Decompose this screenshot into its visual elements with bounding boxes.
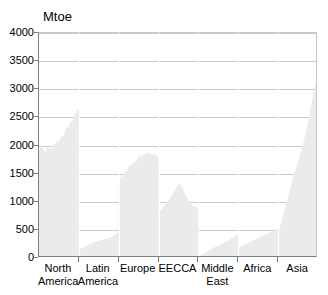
plot-area: [38, 32, 317, 257]
y-tick-mark: [34, 201, 38, 202]
x-axis-category-labels: NorthAmericaLatinAmericaEuropeEECCAMiddl…: [38, 262, 317, 295]
panel-divider: [119, 33, 120, 256]
x-category-label-line1: Europe: [118, 262, 158, 275]
y-tick-mark: [34, 116, 38, 117]
y-tick-mark: [34, 60, 38, 61]
y-tick-label: 4000: [2, 27, 34, 38]
x-category-label-africa: Africa: [237, 262, 277, 275]
y-tick-label: 3500: [2, 55, 34, 66]
y-tick-label: 500: [2, 224, 34, 235]
x-tick-mark: [78, 257, 79, 262]
x-category-label-north-america: NorthAmerica: [38, 262, 78, 288]
x-category-label-line1: Africa: [237, 262, 277, 275]
x-category-label-line1: EECCA: [158, 262, 198, 275]
y-tick-label: 1000: [2, 196, 34, 207]
x-category-label-asia: Asia: [277, 262, 317, 275]
y-tick-label: 2500: [2, 111, 34, 122]
energy-consumption-area-chart: Mtoe 05001000150020002500300035004000 No…: [0, 0, 328, 295]
x-tick-mark: [277, 257, 278, 262]
x-category-label-line1: Middle: [197, 262, 237, 275]
y-tick-label: 2000: [2, 140, 34, 151]
panel-divider: [198, 33, 199, 256]
x-tick-mark: [118, 257, 119, 262]
y-tick-label: 3000: [2, 83, 34, 94]
x-category-label-eecca: EECCA: [158, 262, 198, 275]
x-tick-mark: [237, 257, 238, 262]
x-category-label-middle-east: MiddleEast: [197, 262, 237, 288]
y-tick-label: 0: [2, 252, 34, 263]
y-axis-tick-labels: 05001000150020002500300035004000: [0, 0, 34, 295]
y-tick-mark: [34, 145, 38, 146]
x-category-label-line2: East: [197, 275, 237, 288]
panel-divider: [278, 33, 279, 256]
y-tick-mark: [34, 88, 38, 89]
y-tick-mark: [34, 173, 38, 174]
panel-dividers: [39, 33, 316, 256]
y-tick-mark: [34, 32, 38, 33]
x-category-label-latin-america: LatinAmerica: [78, 262, 118, 288]
panel-divider: [159, 33, 160, 256]
x-category-label-europe: Europe: [118, 262, 158, 275]
y-axis-unit-label: Mtoe: [43, 10, 72, 24]
panel-divider: [238, 33, 239, 256]
panel-divider: [79, 33, 80, 256]
y-tick-label: 1500: [2, 168, 34, 179]
y-tick-mark: [34, 257, 38, 258]
y-tick-mark: [34, 229, 38, 230]
x-category-label-line1: Asia: [277, 262, 317, 275]
x-category-label-line1: North: [38, 262, 78, 275]
x-category-label-line2: America: [78, 275, 118, 288]
x-tick-mark: [158, 257, 159, 262]
x-category-label-line2: America: [38, 275, 78, 288]
x-category-label-line1: Latin: [78, 262, 118, 275]
x-tick-mark: [197, 257, 198, 262]
